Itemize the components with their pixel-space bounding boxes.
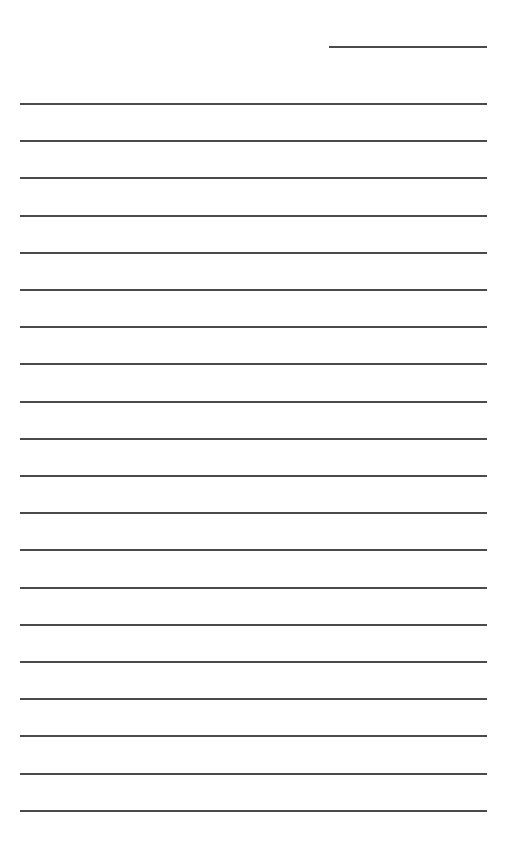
blank-line-right — [346, 103, 487, 105]
blank-line-left — [20, 140, 346, 142]
blank-line-right — [346, 475, 487, 477]
blank-line-right — [346, 177, 487, 179]
blank-line-left — [20, 773, 346, 775]
blank-line-left — [20, 215, 346, 217]
blank-line-left — [20, 252, 346, 254]
blank-line-right — [346, 698, 487, 700]
blank-line-right — [346, 810, 487, 812]
blank-line-right — [346, 512, 487, 514]
blank-line-right — [346, 252, 487, 254]
blank-line-left — [20, 401, 346, 403]
blank-line-left — [20, 661, 346, 663]
blank-line-right — [346, 773, 487, 775]
blank-line-left — [20, 326, 346, 328]
blank-line-right — [346, 363, 487, 365]
blank-line-right — [346, 289, 487, 291]
blank-line-left — [20, 512, 346, 514]
blank-line-right — [346, 401, 487, 403]
blank-line-left — [20, 177, 346, 179]
blank-line-left — [20, 103, 346, 105]
blank-line-left — [20, 475, 346, 477]
blank-line-right — [346, 215, 487, 217]
blank-line-left — [20, 363, 346, 365]
blank-line-right — [346, 661, 487, 663]
blank-line-left — [20, 735, 346, 737]
blank-line-right — [346, 549, 487, 551]
blank-line-left — [20, 587, 346, 589]
blank-line-right — [346, 735, 487, 737]
header-blank-line — [329, 46, 487, 48]
blank-line-right — [346, 326, 487, 328]
blank-line-right — [346, 438, 487, 440]
blank-line-left — [20, 438, 346, 440]
blank-line-left — [20, 698, 346, 700]
blank-line-right — [346, 624, 487, 626]
blank-line-left — [20, 289, 346, 291]
blank-line-left — [20, 549, 346, 551]
blank-line-right — [346, 140, 487, 142]
blank-line-right — [346, 587, 487, 589]
blank-line-left — [20, 624, 346, 626]
blank-line-left — [20, 810, 346, 812]
